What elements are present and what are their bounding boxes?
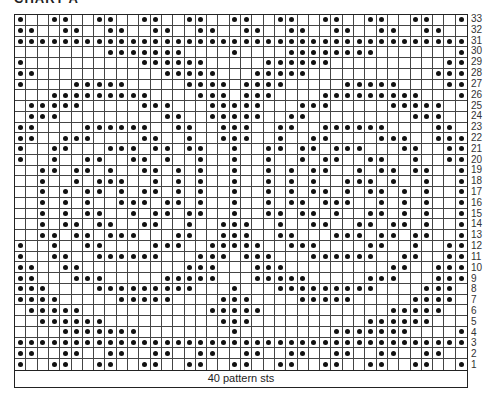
chart-cell	[26, 155, 37, 166]
chart-cell	[117, 273, 128, 284]
chart-cell-purl-dot	[331, 348, 342, 359]
chart-cell-purl-dot	[433, 262, 444, 273]
chart-cell-purl-dot	[207, 252, 218, 263]
chart-cell-purl-dot	[343, 284, 354, 295]
chart-cell-purl-dot	[230, 209, 241, 220]
chart-cell-purl-dot	[388, 176, 399, 187]
chart-cell-purl-dot	[94, 252, 105, 263]
chart-cell-purl-dot	[241, 338, 252, 349]
chart-cell	[444, 316, 455, 327]
chart-cell-purl-dot	[264, 166, 275, 177]
chart-cell-purl-dot	[196, 187, 207, 198]
chart-cell-purl-dot	[377, 359, 388, 370]
chart-cell	[128, 262, 139, 273]
chart-cell	[162, 359, 173, 370]
chart-cell	[275, 26, 286, 37]
chart-cell-purl-dot	[252, 305, 263, 316]
chart-cell-purl-dot	[456, 69, 467, 80]
chart-cell-purl-dot	[343, 47, 354, 58]
chart-cell-purl-dot	[354, 47, 365, 58]
chart-cell-purl-dot	[365, 80, 376, 91]
chart-cell	[94, 58, 105, 69]
chart-cell-purl-dot	[26, 101, 37, 112]
chart-cell	[151, 123, 162, 134]
chart-cell-purl-dot	[94, 123, 105, 134]
chart-cell-purl-dot	[365, 327, 376, 338]
row-number-column: 3332313029282726252423222120191817161514…	[471, 14, 495, 371]
chart-cell-purl-dot	[105, 15, 116, 26]
chart-cell-purl-dot	[207, 262, 218, 273]
chart-cell-purl-dot	[230, 37, 241, 48]
chart-cell-purl-dot	[173, 37, 184, 48]
chart-cell-purl-dot	[151, 187, 162, 198]
chart-cell-purl-dot	[139, 295, 150, 306]
chart-cell-purl-dot	[354, 338, 365, 349]
chart-cell-purl-dot	[72, 273, 83, 284]
chart-cell	[15, 101, 26, 112]
chart-cell-purl-dot	[151, 209, 162, 220]
chart-cell-purl-dot	[230, 187, 241, 198]
chart-cell-purl-dot	[264, 209, 275, 220]
chart-cell	[60, 123, 71, 134]
chart-cell	[207, 15, 218, 26]
chart-cell	[15, 230, 26, 241]
chart-cell	[83, 348, 94, 359]
chart-cell-purl-dot	[298, 58, 309, 69]
chart-cell	[241, 176, 252, 187]
chart-cell	[354, 198, 365, 209]
chart-cell	[354, 273, 365, 284]
chart-cell-purl-dot	[456, 144, 467, 155]
chart-cell	[456, 316, 467, 327]
chart-cell-purl-dot	[38, 209, 49, 220]
chart-cell-purl-dot	[49, 241, 60, 252]
chart-cell	[196, 219, 207, 230]
chart-cell-purl-dot	[264, 338, 275, 349]
chart-cell-purl-dot	[320, 37, 331, 48]
chart-cell	[286, 327, 297, 338]
chart-cell	[354, 187, 365, 198]
chart-cell-purl-dot	[298, 69, 309, 80]
chart-cell-purl-dot	[422, 359, 433, 370]
chart-cell	[309, 230, 320, 241]
chart-cell	[354, 26, 365, 37]
chart-cell-purl-dot	[207, 273, 218, 284]
chart-cell	[162, 327, 173, 338]
chart-cell-purl-dot	[162, 284, 173, 295]
chart-cell-purl-dot	[388, 133, 399, 144]
chart-cell	[309, 90, 320, 101]
chart-cell-purl-dot	[230, 176, 241, 187]
chart-cell-purl-dot	[49, 305, 60, 316]
chart-cell	[320, 316, 331, 327]
chart-cell-purl-dot	[26, 284, 37, 295]
chart-cell-purl-dot	[151, 284, 162, 295]
chart-cell-purl-dot	[320, 133, 331, 144]
chart-cell-purl-dot	[399, 305, 410, 316]
chart-cell-purl-dot	[218, 133, 229, 144]
chart-cell-purl-dot	[38, 305, 49, 316]
chart-cell-purl-dot	[83, 209, 94, 220]
chart-cell-purl-dot	[60, 101, 71, 112]
chart-cell	[411, 198, 422, 209]
chart-cell-purl-dot	[331, 327, 342, 338]
chart-cell-purl-dot	[162, 198, 173, 209]
chart-cell	[26, 58, 37, 69]
chart-cell-purl-dot	[399, 198, 410, 209]
chart-cell-purl-dot	[94, 359, 105, 370]
chart-cell	[365, 198, 376, 209]
chart-cell-purl-dot	[422, 112, 433, 123]
chart-cell	[173, 219, 184, 230]
chart-cell-purl-dot	[252, 26, 263, 37]
chart-cell-purl-dot	[83, 327, 94, 338]
chart-cell-purl-dot	[433, 123, 444, 134]
chart-cell	[275, 241, 286, 252]
chart-cell-purl-dot	[433, 284, 444, 295]
chart-cell-purl-dot	[399, 187, 410, 198]
chart-cell	[320, 348, 331, 359]
chart-cell-purl-dot	[230, 144, 241, 155]
chart-cell	[185, 316, 196, 327]
chart-cell	[343, 166, 354, 177]
chart-cell-purl-dot	[456, 58, 467, 69]
chart-cell-purl-dot	[433, 348, 444, 359]
chart-cell	[456, 123, 467, 134]
chart-cell	[83, 69, 94, 80]
